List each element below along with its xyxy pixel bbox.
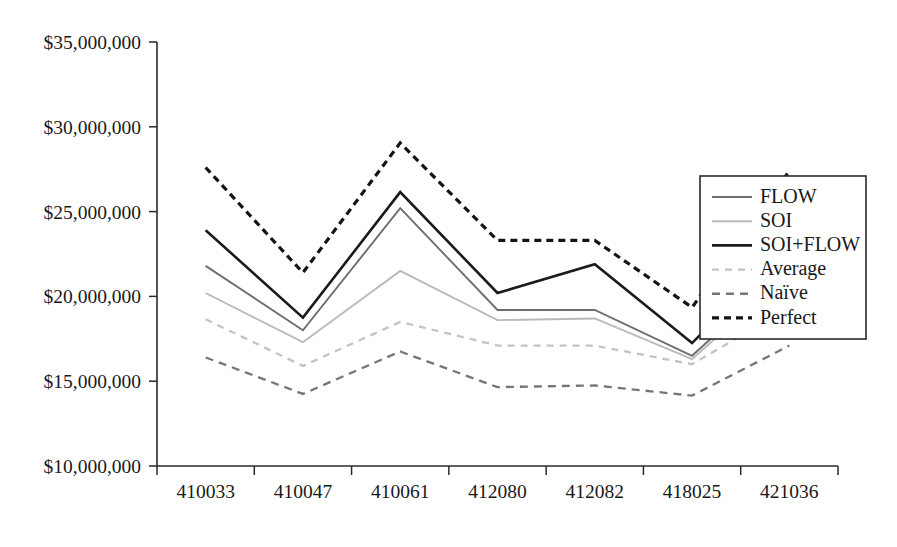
legend-label: SOI+FLOW [760,233,860,255]
x-tick-label: 421036 [760,481,819,502]
chart-canvas: $10,000,000$15,000,000$20,000,000$25,000… [0,0,897,547]
x-tick-label: 418025 [663,481,722,502]
legend-label: FLOW [760,185,817,207]
chart-legend[interactable]: FLOWSOISOI+FLOWAverageNaïvePerfect [700,176,866,339]
legend-label: Naïve [760,281,808,303]
y-tick-label: $35,000,000 [44,32,142,53]
y-tick-label: $15,000,000 [44,371,142,392]
x-tick-label: 410061 [371,481,430,502]
y-tick-label: $20,000,000 [44,286,142,307]
x-tick-label: 410033 [176,481,235,502]
legend-label: Perfect [760,306,817,328]
y-tick-label: $30,000,000 [44,117,142,138]
line-chart: $10,000,000$15,000,000$20,000,000$25,000… [0,0,897,547]
legend-label: Average [760,257,826,280]
x-tick-label: 410047 [274,481,333,502]
y-tick-label: $25,000,000 [44,202,142,223]
y-tick-label: $10,000,000 [44,456,142,477]
x-tick-label: 412080 [468,481,527,502]
x-tick-label: 412082 [566,481,625,502]
legend-label: SOI [760,209,792,231]
